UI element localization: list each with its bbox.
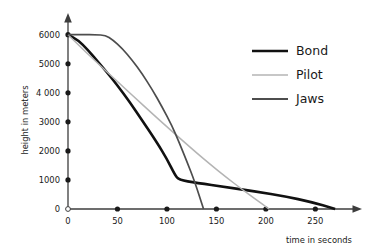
y-tick-dot: [65, 119, 70, 124]
chart-container: 01000200030004 00050006000 0501001502002…: [0, 0, 378, 252]
legend-item-pilot[interactable]: Pilot: [252, 67, 323, 82]
y-tick-label: 0: [55, 204, 60, 214]
x-tick-label: 200: [258, 216, 274, 226]
series-line-bond: [68, 35, 335, 209]
y-tick-dot: [66, 207, 71, 212]
y-tick-label: 5000: [39, 59, 60, 69]
y-tick-dot: [65, 61, 70, 66]
x-tick-dot: [115, 206, 120, 211]
data-series-group: [68, 35, 335, 209]
y-tick-dot: [65, 148, 70, 153]
line-chart: 01000200030004 00050006000 0501001502002…: [0, 0, 378, 252]
y-tick-dot: [65, 90, 70, 95]
x-axis-title: time in seconds: [286, 235, 352, 245]
legend-label-jaws: Jaws: [295, 91, 324, 106]
y-tick-labels: 01000200030004 00050006000: [36, 30, 60, 214]
y-tick-label: 6000: [39, 30, 60, 40]
y-tick-label: 4 000: [36, 88, 60, 98]
x-tick-dot: [214, 206, 219, 211]
y-tick-label: 2000: [39, 146, 60, 156]
y-axis-arrow-icon: [64, 13, 72, 23]
y-tick-label: 1000: [39, 175, 60, 185]
legend-item-jaws[interactable]: Jaws: [252, 91, 324, 106]
x-tick-dot: [164, 206, 169, 211]
x-tick-label: 100: [159, 216, 175, 226]
legend: Bond Pilot Jaws: [252, 43, 328, 106]
x-axis-arrow-icon: [353, 205, 363, 213]
legend-label-bond: Bond: [296, 43, 328, 58]
x-tick-label: 250: [307, 216, 323, 226]
y-axis-title: height in meters: [20, 85, 30, 154]
x-tick-labels: 050100150200250: [65, 216, 323, 226]
x-tick-label: 150: [208, 216, 224, 226]
x-tick-dot: [313, 206, 318, 211]
y-tick-dot: [65, 177, 70, 182]
x-tick-label: 50: [112, 216, 123, 226]
legend-label-pilot: Pilot: [296, 67, 323, 82]
series-line-jaws: [68, 35, 204, 209]
y-tick-label: 3000: [39, 117, 60, 127]
x-tick-label: 0: [65, 216, 70, 226]
legend-item-bond[interactable]: Bond: [252, 43, 328, 58]
